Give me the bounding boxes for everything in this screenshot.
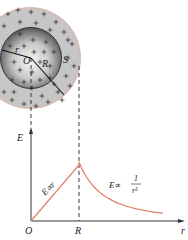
- outside-relation-prefix: E∝: [108, 180, 121, 190]
- outside-relation-numerator: 1: [134, 174, 138, 183]
- origin-label: O: [25, 225, 32, 236]
- x-axis-label: r: [181, 225, 185, 236]
- radius-label-R: R: [41, 58, 48, 69]
- x-axis-arrow-icon: [178, 219, 185, 223]
- y-axis-label: E: [16, 132, 23, 143]
- y-axis-arrow-icon: [29, 127, 33, 134]
- gauss-sphere-field-diagram: r O R S E r O R E∝r E∝ 1 r²: [0, 0, 188, 240]
- outside-relation-denominator: r²: [132, 186, 138, 195]
- radius-tick-label: R: [74, 225, 81, 236]
- inside-relation-label: E∝r: [39, 179, 58, 198]
- surface-label-S: S: [63, 54, 68, 65]
- inner-radius-label: r: [15, 44, 19, 55]
- center-label-O: O: [23, 55, 30, 66]
